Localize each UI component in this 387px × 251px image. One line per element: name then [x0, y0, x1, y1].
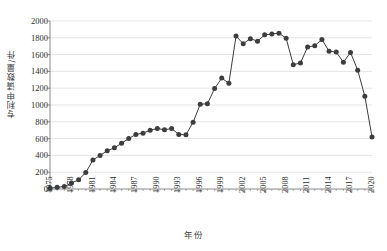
data-point-marker	[162, 127, 167, 132]
data-point-marker	[284, 36, 289, 41]
data-point-marker	[241, 41, 246, 46]
x-axis-label: 年份	[0, 228, 387, 240]
x-tick-label: 1984	[109, 176, 118, 193]
data-point-marker	[155, 126, 160, 131]
data-point-marker	[141, 131, 146, 136]
data-point-marker	[119, 141, 124, 146]
data-point-marker	[126, 136, 131, 141]
data-point-marker	[269, 32, 274, 37]
data-point-marker	[276, 31, 281, 36]
data-point-marker	[133, 132, 138, 137]
patent-application-line-chart: 专利申请数量/件 0200400600800100012001400160018…	[0, 0, 387, 251]
data-point-marker	[370, 134, 375, 139]
data-line	[50, 33, 372, 188]
data-point-marker	[234, 34, 239, 39]
data-point-marker	[348, 50, 353, 55]
data-point-marker	[191, 120, 196, 125]
data-point-marker	[198, 102, 203, 107]
data-point-marker	[205, 101, 210, 106]
data-point-marker	[90, 158, 95, 163]
data-point-marker	[298, 61, 303, 66]
data-point-marker	[355, 68, 360, 73]
x-tick-label: 2011	[302, 176, 311, 193]
x-tick-label: 1999	[216, 176, 225, 193]
x-tick-label: 2014	[324, 176, 333, 193]
data-point-marker	[212, 86, 217, 91]
data-point-marker	[176, 132, 181, 137]
bottom-caption	[0, 242, 387, 251]
x-tick-label: 2020	[367, 176, 376, 193]
data-point-marker	[76, 177, 81, 182]
x-tick-label: 1981	[88, 176, 97, 193]
x-tick-label: 1987	[130, 176, 139, 193]
x-tick-label: 1975	[45, 176, 54, 193]
data-point-marker	[362, 94, 367, 99]
x-tick-label: 1996	[195, 176, 204, 193]
y-tick-marks	[47, 21, 51, 189]
data-point-marker	[219, 76, 224, 81]
x-tick-label: 1993	[173, 176, 182, 193]
x-tick-label: 2008	[281, 176, 290, 193]
data-point-marker	[169, 126, 174, 131]
data-point-marker	[327, 49, 332, 54]
data-point-marker	[112, 145, 117, 150]
data-point-marker	[83, 170, 88, 175]
x-tick-label: 2017	[345, 176, 354, 193]
data-point-marker	[226, 81, 231, 86]
x-axis-tick-labels: 1975197819811984198719901993199619992002…	[0, 193, 387, 233]
data-point-marker	[262, 32, 267, 37]
data-point-marker	[312, 43, 317, 48]
data-point-marker	[291, 62, 296, 67]
x-tick-label: 1978	[66, 176, 75, 193]
data-point-marker	[319, 37, 324, 42]
data-point-marker	[305, 45, 310, 50]
x-tick-label: 2002	[238, 176, 247, 193]
data-point-marker	[341, 60, 346, 65]
data-point-marker	[105, 148, 110, 153]
data-point-marker	[248, 36, 253, 41]
x-tick-label: 2005	[259, 176, 268, 193]
data-point-marker	[148, 128, 153, 133]
data-point-marker	[255, 39, 260, 44]
x-tick-label: 1990	[152, 176, 161, 193]
data-point-marker	[183, 132, 188, 137]
data-point-marker	[55, 185, 60, 190]
data-point-marker	[98, 153, 103, 158]
data-point-marker	[334, 50, 339, 55]
